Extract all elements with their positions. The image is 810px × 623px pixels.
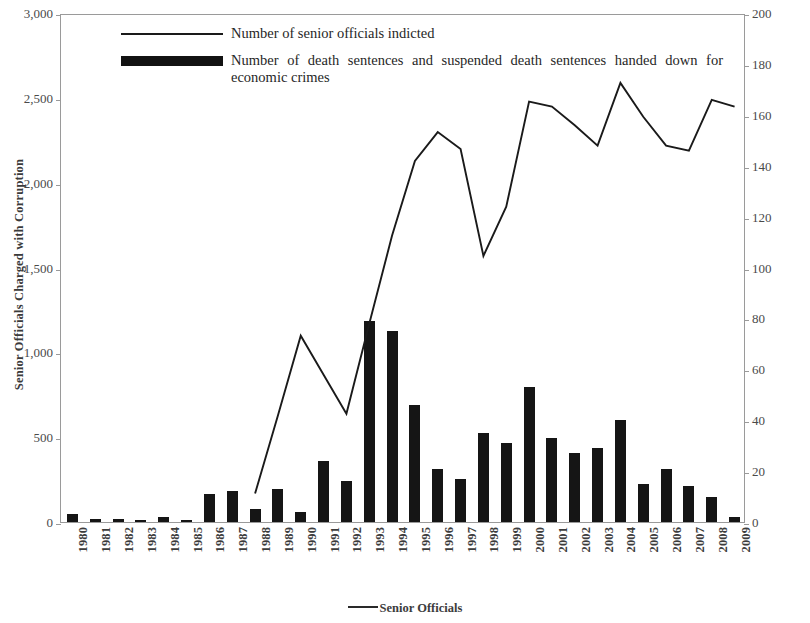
x-tick-1997: 1997: [465, 527, 480, 552]
x-tick-1980: 1980: [76, 527, 91, 552]
x-tick-1995: 1995: [419, 527, 434, 552]
x-tick-2003: 2003: [602, 527, 617, 552]
chart-container: Senior Officials Charged with Corruption…: [0, 0, 810, 623]
y-tick-right-120: 120: [752, 210, 798, 226]
legend-label-bar: Number of death sentences and suspended …: [231, 52, 723, 87]
y-tick-right-140: 140: [752, 159, 798, 175]
x-tick-2006: 2006: [670, 527, 685, 552]
line-path: [255, 83, 735, 494]
plot-area: Number of senior officials indicted Numb…: [60, 14, 745, 523]
chart-legend: Number of senior officials indicted Numb…: [113, 25, 723, 96]
y-tick-right-100: 100: [752, 261, 798, 277]
x-tick-2009: 2009: [739, 527, 754, 552]
x-tick-1989: 1989: [282, 527, 297, 552]
legend-item-bar: Number of death sentences and suspended …: [113, 52, 723, 87]
x-tick-2008: 2008: [716, 527, 731, 552]
y-tick-right-0: 0: [752, 515, 798, 531]
line-key-icon: [113, 25, 231, 42]
x-tick-1993: 1993: [373, 527, 388, 552]
y-tick-right-80: 80: [752, 311, 798, 327]
x-tick-1990: 1990: [305, 527, 320, 552]
x-tick-1991: 1991: [328, 527, 343, 552]
bottom-legend: Senior Officials: [0, 601, 810, 616]
y-tick-left-1000: 1,000: [7, 345, 53, 361]
x-tick-1982: 1982: [122, 527, 137, 552]
x-tick-2007: 2007: [693, 527, 708, 552]
y-tick-right-180: 180: [752, 57, 798, 73]
y-tick-right-20: 20: [752, 464, 798, 480]
x-tick-1983: 1983: [145, 527, 160, 552]
x-tick-2001: 2001: [556, 527, 571, 552]
x-tick-1987: 1987: [236, 527, 251, 552]
x-tick-1986: 1986: [213, 527, 228, 552]
x-tick-1981: 1981: [99, 527, 114, 552]
x-tick-2002: 2002: [579, 527, 594, 552]
y-tick-left-500: 500: [7, 430, 53, 446]
x-tick-1994: 1994: [396, 527, 411, 552]
bottom-legend-line-icon: [348, 606, 378, 609]
legend-label-line: Number of senior officials indicted: [231, 25, 723, 43]
y-tick-right-60: 60: [752, 362, 798, 378]
y-tick-left-1500: 1,500: [7, 261, 53, 277]
x-axis-labels: 1980198119821983198419851986198719881989…: [60, 523, 745, 593]
x-tick-2005: 2005: [647, 527, 662, 552]
y-tick-left-2500: 2,500: [7, 91, 53, 107]
y-tick-right-200: 200: [752, 6, 798, 22]
y-tick-right-40: 40: [752, 413, 798, 429]
y-tick-right-160: 160: [752, 108, 798, 124]
legend-item-line: Number of senior officials indicted: [113, 25, 723, 43]
x-tick-1998: 1998: [487, 527, 502, 552]
x-tick-1996: 1996: [442, 527, 457, 552]
x-tick-1988: 1988: [259, 527, 274, 552]
x-tick-1985: 1985: [191, 527, 206, 552]
x-tick-1999: 1999: [510, 527, 525, 552]
y-tick-left-0: 0: [7, 515, 53, 531]
y-axis-left-ticks: 3,0002,5002,0001,5001,0005000: [0, 0, 53, 623]
bar-key-icon: [113, 52, 231, 69]
x-tick-1992: 1992: [350, 527, 365, 552]
x-tick-2000: 2000: [533, 527, 548, 552]
y-tick-left-3000: 3,000: [7, 6, 53, 22]
x-tick-1984: 1984: [168, 527, 183, 552]
y-tick-left-2000: 2,000: [7, 176, 53, 192]
bottom-legend-label: Senior Officials: [380, 601, 463, 615]
y-axis-right-ticks: 200180160140120100806040200: [752, 0, 802, 623]
x-tick-2004: 2004: [624, 527, 639, 552]
